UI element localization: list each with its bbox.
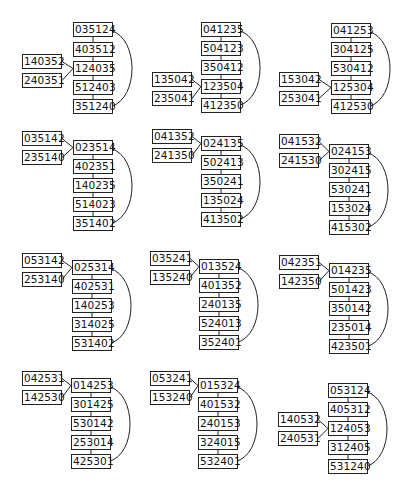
side-node: 041352 [152,129,192,144]
chain-node: 304125 [331,42,371,57]
side-node: 140532 [278,412,318,427]
side-node: 142530 [22,390,62,405]
side-node: 035241 [150,251,190,266]
side-node: 235041 [152,91,192,106]
chain-node: 352401 [199,335,239,350]
side-node: 153240 [150,390,190,405]
chain-node: 014235 [329,263,369,278]
chain-node: 401532 [198,397,238,412]
chain-node: 014253 [71,378,111,393]
chain-node: 240153 [198,416,238,431]
side-node: 042531 [22,371,62,386]
chain-node: 240135 [199,297,239,312]
chain-node: 512403 [73,80,113,95]
chain-node: 135024 [201,193,241,208]
side-node: 053142 [22,253,62,268]
chain-node: 501423 [329,282,369,297]
side-node: 241350 [152,148,192,163]
chain-node: 013524 [199,259,239,274]
chain-node: 024135 [201,136,241,151]
chain-node: 530241 [329,182,369,197]
side-node: 142350 [279,274,319,289]
chain-node: 153024 [329,201,369,216]
side-node: 241530 [279,153,319,168]
chain-node: 412530 [331,99,371,114]
chain-node: 504123 [201,41,241,56]
chain-node: 350142 [329,301,369,316]
chain-node: 140235 [73,178,113,193]
side-node: 235140 [22,150,62,165]
side-node: 041532 [279,134,319,149]
chain-node: 041253 [331,23,371,38]
side-node: 140352 [22,54,62,69]
chain-node: 402531 [72,279,112,294]
chain-node: 041235 [201,22,241,37]
side-node: 135240 [150,270,190,285]
chain-node: 123504 [201,79,241,94]
side-node: 135042 [152,72,192,87]
side-node: 253041 [279,91,319,106]
diagram-canvas: 0351244035121240355124033512401403522403… [0,0,405,492]
chain-node: 124053 [328,421,368,436]
chain-node: 125304 [331,80,371,95]
chain-node: 532401 [198,454,238,469]
chain-node: 312405 [328,440,368,455]
chain-node: 025314 [72,260,112,275]
chain-node: 124035 [73,61,113,76]
chain-node: 314025 [72,317,112,332]
chain-node: 350412 [201,60,241,75]
chain-node: 530412 [331,61,371,76]
chain-node: 425301 [71,454,111,469]
chain-node: 235014 [329,320,369,335]
chain-node: 351240 [73,99,113,114]
chain-node: 401352 [199,278,239,293]
chain-node: 524013 [199,316,239,331]
side-node: 053241 [150,371,190,386]
chain-node: 531402 [72,336,112,351]
chain-node: 423501 [329,339,369,354]
side-node: 042351 [279,255,319,270]
chain-node: 253014 [71,435,111,450]
chain-node: 302415 [329,163,369,178]
chain-node: 140253 [72,298,112,313]
side-node: 253140 [22,272,62,287]
chain-node: 413502 [201,212,241,227]
chain-node: 514023 [73,197,113,212]
chain-node: 324015 [198,435,238,450]
chain-node: 350241 [201,174,241,189]
chain-node: 531240 [328,459,368,474]
chain-node: 015324 [198,378,238,393]
side-node: 240351 [22,73,62,88]
chain-node: 351402 [73,216,113,231]
chain-node: 402351 [73,159,113,174]
chain-node: 301425 [71,397,111,412]
chain-node: 502413 [201,155,241,170]
chain-node: 412350 [201,98,241,113]
chain-node: 415302 [329,220,369,235]
chain-node: 403512 [73,42,113,57]
side-node: 153042 [279,72,319,87]
chain-node: 035124 [73,22,113,37]
side-node: 035142 [22,131,62,146]
chain-node: 023514 [73,140,113,155]
chain-node: 405312 [328,402,368,417]
chain-node: 530142 [71,416,111,431]
side-node: 240531 [278,431,318,446]
chain-node: 024153 [329,144,369,159]
chain-node: 053124 [328,383,368,398]
